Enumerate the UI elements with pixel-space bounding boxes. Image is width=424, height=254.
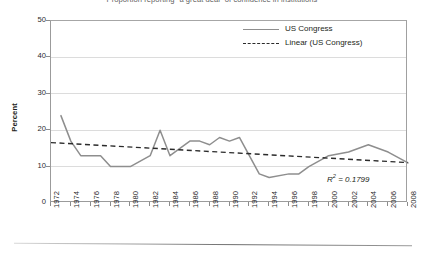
y-tick-mark-10 [46, 166, 50, 167]
y-tick-label-40: 40 [2, 52, 46, 60]
legend-swatch-solid-icon [243, 24, 279, 34]
x-tick-label-1988: 1988 [212, 191, 220, 208]
x-tick-label-1990: 1990 [232, 191, 240, 208]
x-tick-mark-1984 [169, 202, 170, 206]
x-tick-label-2008: 2008 [410, 191, 418, 208]
y-axis: 50403020100 [0, 20, 46, 202]
x-tick-label-2004: 2004 [370, 191, 378, 208]
y-tick-label-50: 50 [2, 16, 46, 24]
x-tick-mark-2006 [387, 202, 388, 206]
legend-item-2[interactable]: Linear (US Congress) [243, 36, 393, 49]
legend-swatch-dashed-icon [243, 38, 279, 48]
chart-title: Proportion reporting “a great deal” of c… [0, 0, 424, 5]
x-tick-mark-1986 [189, 202, 190, 206]
y-tick-mark-30 [46, 93, 50, 94]
x-tick-label-1992: 1992 [251, 191, 259, 208]
chart-legend: US CongressLinear (US Congress) [243, 22, 393, 50]
x-tick-mark-1988 [209, 202, 210, 206]
r-squared-annotation: R2 = 0.1799 [327, 173, 370, 184]
x-tick-mark-2002 [348, 202, 349, 206]
x-tick-mark-1974 [70, 202, 71, 206]
x-tick-label-1982: 1982 [152, 191, 160, 208]
r-squared-value: = 0.1799 [336, 175, 370, 184]
y-tick-mark-50 [46, 20, 50, 21]
x-tick-label-1980: 1980 [132, 191, 140, 208]
y-tick-mark-20 [46, 129, 50, 130]
legend-label: US Congress [285, 24, 333, 34]
x-tick-mark-2000 [328, 202, 329, 206]
y-axis-title: Percent [10, 88, 19, 148]
x-tick-label-1978: 1978 [113, 191, 121, 208]
x-tick-label-1994: 1994 [271, 191, 279, 208]
y-tick-mark-40 [46, 56, 50, 57]
x-tick-mark-1994 [268, 202, 269, 206]
legend-label: Linear (US Congress) [285, 38, 362, 48]
x-tick-mark-1982 [149, 202, 150, 206]
x-tick-mark-1978 [110, 202, 111, 206]
x-tick-mark-1996 [288, 202, 289, 206]
x-tick-label-1998: 1998 [311, 191, 319, 208]
x-tick-mark-2008 [407, 202, 408, 206]
x-tick-label-1996: 1996 [291, 191, 299, 208]
chart-page: Proportion reporting “a great deal” of c… [0, 0, 424, 254]
x-tick-label-1972: 1972 [53, 191, 61, 208]
x-tick-mark-1972 [50, 202, 51, 206]
y-tick-label-0: 0 [2, 198, 46, 206]
x-tick-label-2002: 2002 [351, 191, 359, 208]
y-tick-label-10: 10 [2, 162, 46, 170]
x-tick-label-1984: 1984 [172, 191, 180, 208]
x-tick-mark-1998 [308, 202, 309, 206]
x-tick-label-2006: 2006 [390, 191, 398, 208]
x-tick-label-1986: 1986 [192, 191, 200, 208]
x-tick-mark-1990 [229, 202, 230, 206]
legend-item-1[interactable]: US Congress [243, 22, 393, 35]
x-tick-label-2000: 2000 [331, 191, 339, 208]
x-tick-mark-1976 [90, 202, 91, 206]
x-tick-label-1974: 1974 [73, 191, 81, 208]
x-tick-label-1976: 1976 [93, 191, 101, 208]
